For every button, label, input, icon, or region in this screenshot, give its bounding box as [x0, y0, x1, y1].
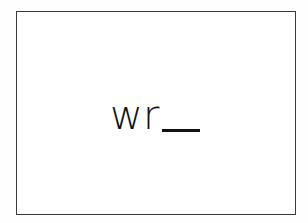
text-content-area[interactable]: wr: [17, 12, 295, 214]
underscore-rule: [162, 129, 200, 132]
screenshot-canvas: wr: [0, 0, 308, 223]
bordered-content-box: wr: [16, 11, 296, 215]
typed-text-block[interactable]: wr: [110, 95, 200, 135]
typed-text-letters: wr: [110, 92, 160, 138]
